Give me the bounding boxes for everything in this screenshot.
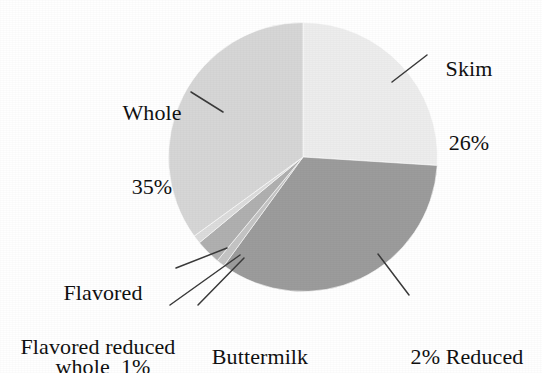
pie-label-flavored-reduced-fat-and-skim: Flavored reduced fat and skim 3% (0, 286, 196, 373)
leader-line-reduced-fat (378, 254, 409, 295)
pie-label-buttermilk: Buttermilk 1% (192, 296, 328, 373)
pie-label-buttermilk-name: Buttermilk (192, 345, 328, 370)
pie-label-reduced-fat: 2% Reduced fat 34% (392, 296, 542, 373)
pie-label-skim-name: Skim (404, 57, 534, 82)
pie-label-flavored-reduced-line1: Flavored reduced (0, 335, 196, 360)
pie-label-skim: Skim 26% (404, 8, 534, 205)
pie-chart: Skim 26% Whole 35% Flavored whole 1% Fla… (0, 0, 542, 373)
pie-label-whole: Whole 35% (86, 52, 218, 249)
pie-label-whole-percent: 35% (86, 175, 218, 200)
pie-label-reduced-fat-line1: 2% Reduced (392, 345, 542, 370)
pie-label-skim-percent: 26% (404, 131, 534, 156)
pie-label-whole-name: Whole (86, 101, 218, 126)
